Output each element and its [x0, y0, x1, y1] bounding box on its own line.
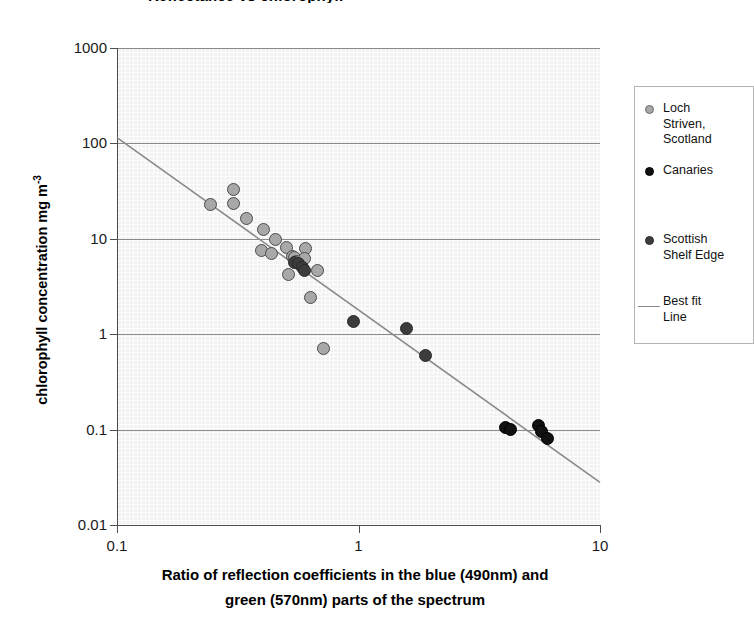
scatter-point [504, 423, 517, 436]
legend-item-label: Loch Striven, Scotland [663, 101, 712, 148]
legend-marker-icon [645, 105, 654, 114]
x-axis-label: Ratio of reflection coefficients in the … [60, 562, 650, 612]
legend-item[interactable]: Canaries [635, 163, 754, 179]
legend-item[interactable]: Scottish Shelf Edge [635, 232, 754, 263]
scatter-point [240, 212, 253, 225]
legend-item[interactable]: Best fit Line [635, 294, 754, 325]
legend-item-label: Scottish Shelf Edge [663, 232, 724, 263]
legend: Loch Striven, ScotlandCanariesScottish S… [634, 86, 754, 344]
legend-swatch-marker [635, 163, 663, 176]
scatter-point [265, 247, 278, 260]
x-axis-label-line2: green (570nm) parts of the spectrum [60, 587, 650, 612]
best-fit-line-path [117, 138, 600, 483]
y-axis-label-text: chlorophyll concentration mg m [34, 184, 50, 405]
legend-item-label: Canaries [663, 163, 713, 179]
legend-item-label: Best fit Line [663, 294, 701, 325]
legend-marker-icon [645, 167, 654, 176]
legend-swatch-line [635, 294, 663, 307]
legend-line-swatch [638, 306, 660, 307]
scatter-point [298, 264, 311, 277]
legend-swatch-marker [635, 232, 663, 245]
legend-marker-icon [645, 236, 654, 245]
y-axis-label-exponent: -3 [32, 175, 43, 184]
y-axis-label: chlorophyll concentration mg m-3 [32, 110, 50, 470]
scatter-point [400, 322, 413, 335]
x-axis-label-line1: Ratio of reflection coefficients in the … [60, 562, 650, 587]
legend-swatch-marker [635, 101, 663, 114]
legend-item[interactable]: Loch Striven, Scotland [635, 101, 754, 148]
scatter-point [311, 264, 324, 277]
